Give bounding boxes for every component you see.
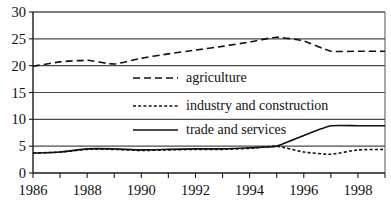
legend-label-agriculture: agriculture	[186, 70, 247, 85]
y-tick-label-10: 10	[12, 111, 27, 127]
line-chart: 051015202530 198619881990199219941996199…	[0, 0, 391, 204]
y-tick-label-5: 5	[19, 138, 26, 154]
y-tick-label-20: 20	[12, 58, 27, 74]
legend-label-trade-and-services: trade and services	[186, 122, 286, 137]
x-tick-label-1998: 1998	[343, 182, 372, 198]
legend-label-industry-and-construction: industry and construction	[186, 98, 328, 113]
x-tick-label-1992: 1992	[181, 182, 210, 198]
y-tick-label-0: 0	[19, 165, 26, 181]
chart-canvas: 051015202530 198619881990199219941996199…	[0, 0, 391, 204]
x-tick-label-1986: 1986	[19, 182, 48, 198]
x-tick-label-1988: 1988	[73, 182, 102, 198]
x-tick-label-1994: 1994	[235, 182, 265, 198]
y-tick-label-25: 25	[12, 31, 27, 47]
y-tick-label-15: 15	[12, 85, 27, 101]
x-tick-label-1990: 1990	[127, 182, 156, 198]
y-tick-label-30: 30	[12, 4, 27, 20]
x-tick-label-1996: 1996	[289, 182, 318, 198]
